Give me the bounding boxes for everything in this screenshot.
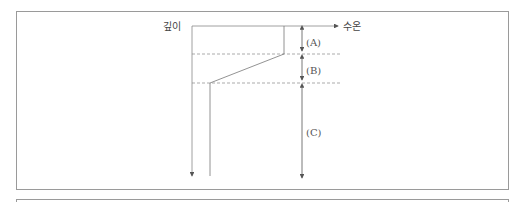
thermocline-diagram: 깊이 수온 (A) (B) (C) — [0, 0, 530, 202]
layer-b-label: (B) — [306, 65, 321, 76]
layer-a-label: (A) — [306, 37, 321, 48]
y-axis-label: 깊이 — [163, 21, 181, 32]
axes — [192, 26, 338, 176]
layer-c-label: (C) — [306, 127, 322, 138]
x-axis-label: 수온 — [343, 21, 361, 32]
temperature-profile-line — [210, 26, 284, 176]
